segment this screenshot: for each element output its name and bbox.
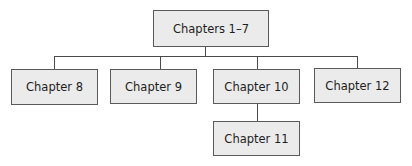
node-chapter-11: Chapter 11 xyxy=(213,121,300,156)
connector-to-chapter-10 xyxy=(257,56,258,69)
node-label: Chapters 1–7 xyxy=(173,22,249,36)
connector-to-chapter-9 xyxy=(160,56,161,69)
connector-to-chapter-8 xyxy=(54,56,55,69)
chapter-dependency-diagram: Chapters 1–7 Chapter 8 Chapter 9 Chapter… xyxy=(0,0,412,166)
node-label: Chapter 9 xyxy=(125,80,182,94)
node-chapter-12: Chapter 12 xyxy=(314,68,401,103)
node-label: Chapter 8 xyxy=(26,80,83,94)
connector-chapter-10-to-11 xyxy=(257,104,258,121)
node-chapters-1-7: Chapters 1–7 xyxy=(153,10,269,47)
connector-horizontal-bus xyxy=(54,56,358,57)
node-chapter-8: Chapter 8 xyxy=(11,69,98,105)
connector-to-chapter-12 xyxy=(357,56,358,68)
node-label: Chapter 12 xyxy=(325,79,389,93)
connector-root-down xyxy=(205,47,206,56)
node-chapter-10: Chapter 10 xyxy=(213,69,300,104)
node-chapter-9: Chapter 9 xyxy=(110,69,197,104)
node-label: Chapter 10 xyxy=(224,80,288,94)
node-label: Chapter 11 xyxy=(224,132,288,146)
